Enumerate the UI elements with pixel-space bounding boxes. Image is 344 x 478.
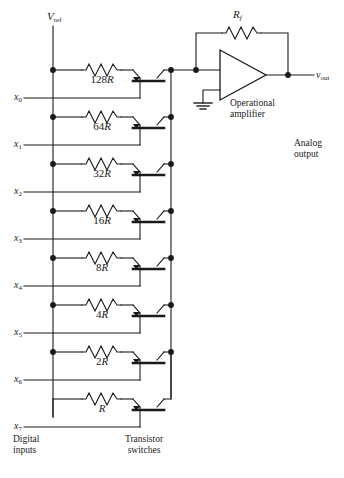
opamp-caption-line2: amplifier bbox=[230, 109, 275, 120]
fet-drain-lead-4 bbox=[133, 211, 140, 219]
digital-inputs-caption: Digital inputs bbox=[13, 434, 39, 455]
junction-dot-rail-5 bbox=[168, 255, 174, 261]
junction-dot-vref-1 bbox=[50, 67, 56, 73]
opamp-noninverting-wire bbox=[203, 90, 220, 103]
junction-dot-rail-2 bbox=[168, 114, 174, 120]
input-label-x1: x1 bbox=[14, 138, 22, 150]
resistor-label-4: 16R bbox=[77, 214, 127, 226]
vref-label: Vref bbox=[47, 10, 62, 23]
fet-source-lead-1 bbox=[157, 70, 164, 78]
fet-source-lead-5 bbox=[157, 258, 164, 266]
input-label-x3: x3 bbox=[14, 232, 22, 244]
fet-drain-lead-6 bbox=[133, 305, 140, 313]
circuit-schematic bbox=[0, 0, 344, 478]
junction-dot-vref-4 bbox=[50, 208, 56, 214]
fet-to-rail-8 bbox=[164, 352, 171, 399]
resistor-label-7: 2R bbox=[77, 355, 127, 367]
feedback-resistor-label: Rf bbox=[233, 8, 242, 21]
input-label-x0: x0 bbox=[14, 91, 22, 103]
input-label-x4: x4 bbox=[14, 279, 22, 291]
input-label-x2: x2 bbox=[14, 185, 22, 197]
junction-dot-vref-2 bbox=[50, 114, 56, 120]
feedback-resistor-zigzag bbox=[222, 27, 261, 39]
junction-dot-rail-3 bbox=[168, 161, 174, 167]
junction-dot-output bbox=[285, 72, 291, 78]
analog-output-caption: Analog output bbox=[294, 138, 322, 159]
transistor-switches-caption: Transistor switches bbox=[109, 434, 179, 455]
analog-output-line2: output bbox=[294, 149, 322, 160]
junction-dot-rail-7 bbox=[168, 349, 174, 355]
fet-source-lead-4 bbox=[157, 211, 164, 219]
resistor-label-5: 8R bbox=[77, 261, 127, 273]
fet-drain-lead-8 bbox=[133, 399, 140, 407]
junction-dot-vref-7 bbox=[50, 349, 56, 355]
digital-inputs-line1: Digital bbox=[13, 434, 39, 445]
feedback-right-wire bbox=[261, 33, 288, 75]
fet-drain-lead-5 bbox=[133, 258, 140, 266]
input-label-x6: x6 bbox=[14, 373, 22, 385]
feedback-left-wire bbox=[196, 33, 222, 70]
resistor-label-2: 64R bbox=[77, 120, 127, 132]
fet-source-lead-6 bbox=[157, 305, 164, 313]
transistor-switches-line2: switches bbox=[109, 445, 179, 456]
digital-inputs-line2: inputs bbox=[13, 445, 39, 456]
junction-dot-rail-4 bbox=[168, 208, 174, 214]
junction-dot-vref-5 bbox=[50, 255, 56, 261]
fet-source-lead-3 bbox=[157, 164, 164, 172]
opamp-triangle bbox=[220, 50, 266, 100]
resistor-label-1: 128R bbox=[77, 73, 127, 85]
resistor-label-8: R bbox=[77, 402, 127, 414]
input-label-x7: x7 bbox=[14, 420, 22, 432]
junction-dot-rail-1 bbox=[168, 67, 174, 73]
resistor-label-3: 32R bbox=[77, 167, 127, 179]
opamp-caption-line1: Operational bbox=[230, 98, 275, 109]
fet-drain-lead-1 bbox=[133, 70, 140, 78]
opamp-caption: Operational amplifier bbox=[230, 98, 275, 119]
transistor-switches-line1: Transistor bbox=[109, 434, 179, 445]
input-label-x5: x5 bbox=[14, 326, 22, 338]
fet-drain-lead-3 bbox=[133, 164, 140, 172]
output-label-vout: vout bbox=[316, 69, 329, 81]
fet-drain-lead-7 bbox=[133, 352, 140, 360]
junction-dot-rail-6 bbox=[168, 302, 174, 308]
fet-source-lead-2 bbox=[157, 117, 164, 125]
junction-dot-vref-6 bbox=[50, 302, 56, 308]
analog-output-line1: Analog bbox=[294, 138, 322, 149]
dac-circuit-figure: Vref 128R 64R 32R 16R 8R 4R 2R R x0 x1 x… bbox=[0, 0, 344, 478]
fet-drain-lead-2 bbox=[133, 117, 140, 125]
junction-dot-vref-3 bbox=[50, 161, 56, 167]
fet-source-lead-7 bbox=[157, 352, 164, 360]
resistor-label-6: 4R bbox=[77, 308, 127, 320]
fet-source-lead-8 bbox=[157, 399, 164, 407]
junction-dot-feedback-input bbox=[193, 67, 199, 73]
